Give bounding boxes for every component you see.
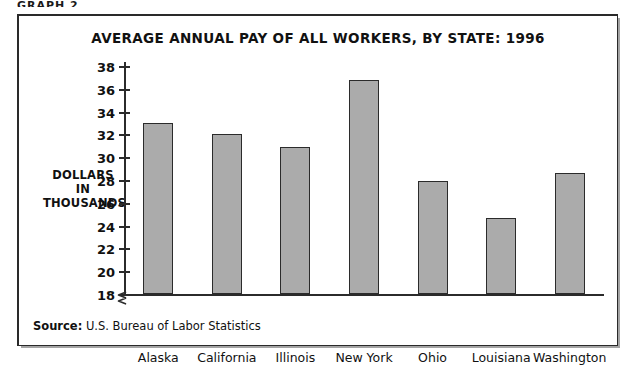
y-axis-tick xyxy=(119,89,130,91)
x-axis-label: Washington xyxy=(533,350,606,365)
chart-title: AVERAGE ANNUAL PAY OF ALL WORKERS, BY ST… xyxy=(19,30,617,46)
y-axis-tick-label: 22 xyxy=(97,242,115,257)
y-axis-tick-label: 20 xyxy=(97,265,115,280)
y-axis-tick xyxy=(119,226,130,228)
y-axis-tick xyxy=(119,157,130,159)
x-axis-label: Illinois xyxy=(276,350,316,365)
source-note: Source: U.S. Bureau of Labor Statistics xyxy=(33,319,261,333)
y-axis-tick-label: 30 xyxy=(97,151,115,166)
bar-ohio[interactable] xyxy=(418,181,448,294)
bar-alaska[interactable] xyxy=(143,123,173,294)
source-text: U.S. Bureau of Labor Statistics xyxy=(86,319,261,333)
x-axis-label: Louisiana xyxy=(472,350,531,365)
chart-frame: AVERAGE ANNUAL PAY OF ALL WORKERS, BY ST… xyxy=(17,14,618,346)
bar-california[interactable] xyxy=(212,134,242,294)
source-label: Source: xyxy=(33,319,82,333)
x-axis-line xyxy=(124,294,604,296)
plot-area: 1820222426283032343638 AlaskaCaliforniaI… xyxy=(124,66,604,294)
bar-illinois[interactable] xyxy=(280,147,310,294)
y-axis-line xyxy=(124,62,126,294)
axis-break-icon xyxy=(117,290,135,308)
y-axis-tick xyxy=(119,248,130,250)
y-axis-tick-label: 24 xyxy=(97,219,115,234)
y-axis-tick xyxy=(119,112,130,114)
bar-louisiana[interactable] xyxy=(486,218,516,294)
y-axis-tick xyxy=(119,180,130,182)
y-axis-tick-label: 18 xyxy=(97,288,115,303)
bar-washington[interactable] xyxy=(555,173,585,294)
y-axis-tick xyxy=(119,134,130,136)
cut-off-caption: GRAPH 2 xyxy=(17,0,79,7)
y-axis-tick-label: 26 xyxy=(97,196,115,211)
x-axis-label: California xyxy=(197,350,256,365)
x-axis-label: New York xyxy=(335,350,392,365)
y-axis-tick-label: 36 xyxy=(97,82,115,97)
y-axis-tick-label: 34 xyxy=(97,105,115,120)
y-axis-tick xyxy=(119,203,130,205)
y-axis-tick xyxy=(119,271,130,273)
y-axis-tick-label: 38 xyxy=(97,60,115,75)
y-axis-tick xyxy=(119,66,130,68)
y-axis-tick-label: 32 xyxy=(97,128,115,143)
y-axis-tick-label: 28 xyxy=(97,174,115,189)
x-axis-label: Ohio xyxy=(418,350,447,365)
x-axis-label: Alaska xyxy=(138,350,179,365)
bar-new-york[interactable] xyxy=(349,80,379,294)
